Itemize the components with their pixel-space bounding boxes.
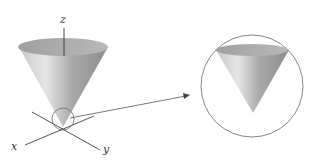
diagram	[0, 0, 314, 165]
cone-zoom	[216, 44, 289, 113]
cone	[18, 28, 108, 127]
z-label: z	[60, 13, 66, 26]
y-label: y	[103, 143, 109, 156]
x-label: x	[11, 140, 17, 153]
arrow-head	[183, 93, 190, 99]
arrow	[70, 96, 186, 118]
